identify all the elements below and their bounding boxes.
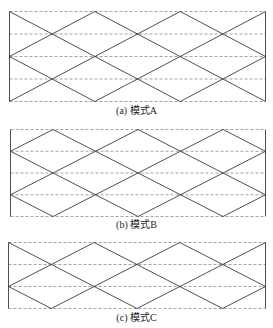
diagonal-line [223, 130, 266, 152]
caption-pattern-a: (a) 模式A [0, 105, 273, 117]
panel-pattern-b [10, 129, 265, 216]
diagonal-line [137, 243, 266, 309]
diagonal-line [223, 287, 266, 309]
diagonal-line [11, 151, 139, 216]
pattern-lattice [10, 129, 266, 217]
diagonal-line [9, 243, 138, 309]
diagonal-line [51, 243, 180, 309]
diagonal-line [11, 130, 54, 152]
panel-pattern-a [9, 11, 265, 101]
pattern-lattice [8, 242, 266, 309]
diagonal-line [94, 243, 222, 309]
caption-pattern-b: (b) 模式B [0, 219, 273, 231]
caption-pattern-c: (c) 模式C [0, 312, 273, 324]
diagonal-line [138, 130, 266, 195]
diagonal-line [138, 151, 266, 216]
diagonal-line [11, 130, 139, 195]
diagonal-line [223, 195, 266, 217]
panel-pattern-c [8, 242, 265, 308]
pattern-lattice [9, 11, 266, 102]
diagonal-line [11, 195, 54, 217]
diagonal-line [9, 287, 52, 309]
